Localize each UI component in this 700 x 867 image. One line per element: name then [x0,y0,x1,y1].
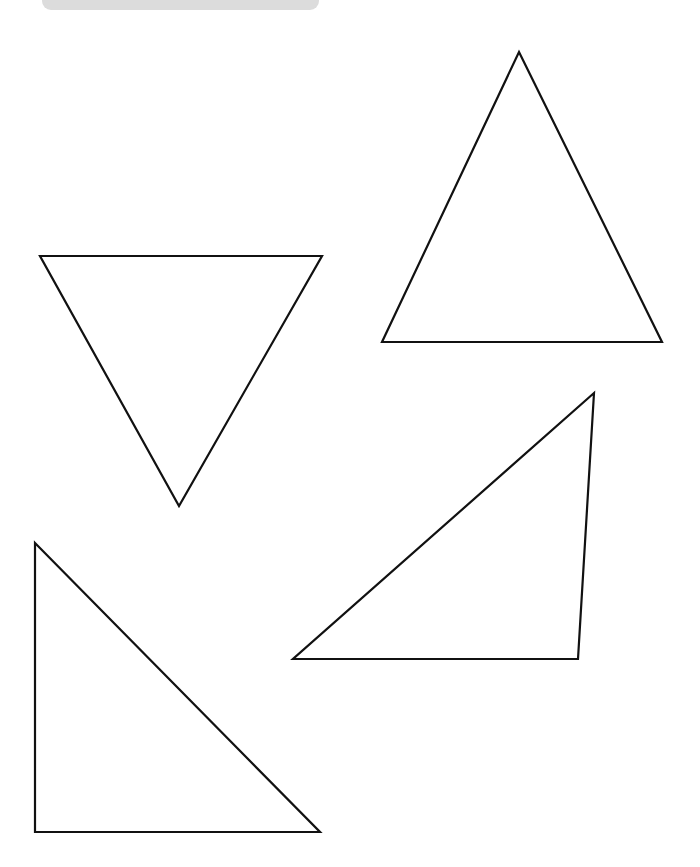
shapes-canvas [0,0,700,867]
triangle-upright-top-right[interactable] [382,52,662,342]
triangle-inverted-top-left[interactable] [40,256,322,506]
triangle-right-middle-right[interactable] [293,393,594,659]
worksheet-page [0,0,700,867]
triangle-right-bottom-left[interactable] [35,543,320,832]
